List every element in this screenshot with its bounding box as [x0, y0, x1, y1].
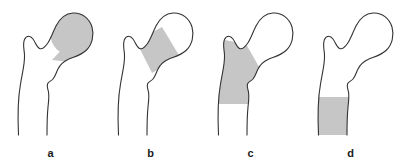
shaded-region-subtrochanteric: [314, 97, 366, 135]
panel-c: c: [200, 0, 301, 168]
femur-diagram-d: [300, 2, 401, 142]
panel-label-b: b: [100, 146, 201, 160]
shaded-region-femoral-neck: [136, 27, 180, 73]
femur-diagram-c: [200, 2, 301, 142]
femur-fracture-figure: a b c: [0, 0, 405, 168]
panel-label-a: a: [0, 146, 101, 160]
femur-diagram-a: [0, 2, 101, 142]
panel-a: a: [0, 0, 101, 168]
panel-b: b: [100, 0, 201, 168]
shaded-region-femoral-head: [50, 10, 96, 62]
panel-label-c: c: [200, 146, 301, 160]
femur-diagram-b: [100, 2, 201, 142]
panel-label-d: d: [300, 146, 401, 160]
panel-d: d: [300, 0, 401, 168]
